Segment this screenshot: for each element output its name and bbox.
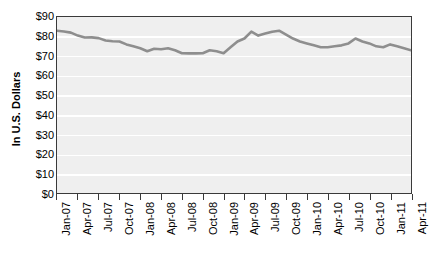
x-axis-tick-mark (203, 194, 204, 200)
x-axis-tick-mark (140, 194, 141, 200)
x-axis-tick-mark (119, 194, 120, 200)
y-axis-tick-label: $70 (14, 50, 54, 61)
x-axis-tick-mark (370, 194, 371, 200)
x-axis-tick-label: Jul-08 (186, 202, 198, 232)
x-axis-tick-mark (307, 194, 308, 200)
x-axis-tick-label: Jul-07 (102, 202, 114, 232)
y-axis-tick-label: $50 (14, 90, 54, 101)
x-axis-tick-label: Oct-10 (374, 202, 386, 235)
x-axis-tick-label: Apr-08 (165, 202, 177, 235)
x-axis-tick-mark (77, 194, 78, 200)
x-axis-tick-label: Oct-07 (123, 202, 135, 235)
x-axis-tick-mark (349, 194, 350, 200)
x-axis-tick-mark (286, 194, 287, 200)
x-axis-tick-mark (224, 194, 225, 200)
y-axis-tick-label: $30 (14, 129, 54, 140)
y-axis-tick-label: $0 (14, 189, 54, 200)
y-axis-tick-label: $10 (14, 169, 54, 180)
x-axis-tick-mark (328, 194, 329, 200)
x-axis-tick-label: Oct-09 (290, 202, 302, 235)
y-axis-tick-label: $40 (14, 109, 54, 120)
x-axis-tick-mark (56, 194, 57, 200)
plot-area (56, 16, 412, 194)
x-axis-tick-label: Jul-09 (269, 202, 281, 232)
x-axis-tick-mark (98, 194, 99, 200)
x-axis-tick-label: Apr-09 (248, 202, 260, 235)
x-axis-tick-mark (161, 194, 162, 200)
x-axis-tick-mark (412, 194, 413, 200)
x-axis-tick-mark (244, 194, 245, 200)
x-axis-tick-label: Apr-11 (416, 202, 428, 234)
x-axis-tick-labels: Jan-07Apr-07Jul-07Oct-07Jan-08Apr-08Jul-… (56, 202, 414, 260)
x-axis-tick-label: Jan-09 (228, 202, 240, 236)
data-line (57, 17, 411, 193)
x-axis-tick-label: Oct-08 (207, 202, 219, 235)
y-axis-tick-label: $80 (14, 30, 54, 41)
y-axis-tick-label: $20 (14, 149, 54, 160)
x-axis-tick-marks (56, 194, 414, 202)
x-axis-tick-mark (182, 194, 183, 200)
x-axis-tick-label: Jan-10 (311, 202, 323, 236)
x-axis-tick-label: Jul-10 (353, 202, 365, 232)
x-axis-tick-label: Jan-07 (60, 202, 72, 236)
x-axis-tick-mark (391, 194, 392, 200)
x-axis-tick-label: Jan-11 (395, 202, 407, 235)
x-axis-tick-label: Apr-10 (332, 202, 344, 235)
y-axis-tick-label: $90 (14, 11, 54, 22)
x-axis-tick-label: Jan-08 (144, 202, 156, 236)
y-axis-tick-labels: $90$80$70$60$50$40$30$20$10$0 (10, 0, 54, 260)
x-axis-tick-mark (265, 194, 266, 200)
line-chart: In U.S. Dollars $90$80$70$60$50$40$30$20… (0, 0, 434, 260)
y-axis-tick-label: $60 (14, 70, 54, 81)
x-axis-tick-label: Apr-07 (81, 202, 93, 235)
